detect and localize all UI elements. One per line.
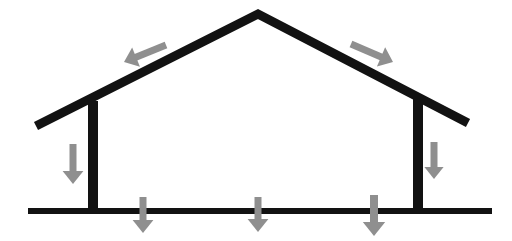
structural-diagram-svg: [0, 0, 512, 241]
structural-diagram-canvas: [0, 0, 512, 241]
